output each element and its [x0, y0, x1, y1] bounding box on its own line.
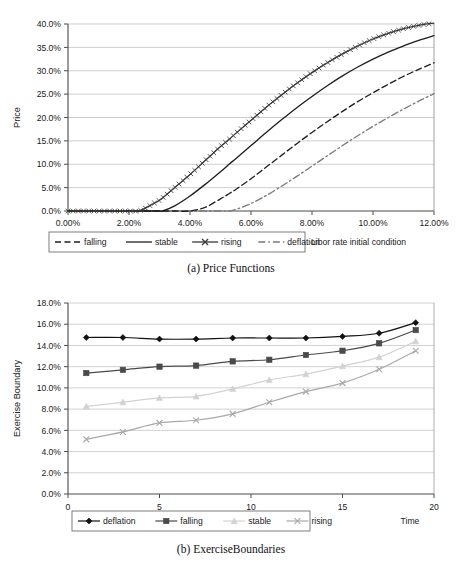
legend-label-stable: stable: [155, 237, 178, 247]
legend-label-rising: rising: [221, 237, 242, 247]
figure-a-caption: (a) Price Functions: [0, 262, 462, 274]
x-tick-label: 0.00%: [56, 218, 81, 228]
y-tick-label: 10.0%: [37, 159, 62, 169]
x-marker: [275, 96, 280, 101]
y-tick-label: 25.0%: [37, 89, 62, 99]
legend-label-falling: falling: [84, 237, 107, 247]
data-point-deflation: [230, 335, 236, 341]
data-point-falling: [230, 359, 235, 364]
x-tick-label: 8.00%: [300, 218, 325, 228]
legend-a: fallingstablerisingdeflation: [49, 232, 320, 252]
y-axis-ticks-b: 0.0%2.0%4.0%6.0%8.0%10.0%12.0%14.0%16.0%…: [37, 298, 68, 499]
chart-a-canvas: 0.0%5.0%10.0%15.0%20.0%25.0%30.0%35.0%40…: [0, 0, 462, 262]
data-point-deflation: [83, 334, 89, 340]
x-tick-label: 12.00%: [419, 218, 449, 228]
figure-price-functions: 0.0%5.0%10.0%15.0%20.0%25.0%30.0%35.0%40…: [0, 0, 462, 285]
series-line-stable: [86, 341, 415, 406]
series-deflation: [83, 320, 418, 342]
x-marker: [157, 198, 162, 203]
x-marker: [291, 84, 296, 89]
x-tick-label: 20: [429, 502, 439, 512]
data-point-deflation: [303, 335, 309, 341]
legend-b: deflationfallingstablerising: [72, 511, 332, 531]
series-line-deflation: [86, 323, 415, 340]
legend-label-falling: falling: [180, 516, 203, 526]
data-point-falling: [303, 352, 308, 357]
x-marker: [317, 66, 322, 71]
y-tick-label: 14.0%: [37, 341, 62, 351]
x-marker: [334, 55, 339, 60]
x-marker: [344, 50, 349, 55]
data-point-falling: [120, 367, 125, 372]
x-axis-title-b: Time: [401, 516, 420, 526]
y-tick-label: 6.0%: [41, 426, 61, 436]
data-point-deflation: [157, 336, 163, 342]
x-tick-label: 0: [66, 502, 71, 512]
x-tick-label: 2.00%: [117, 218, 142, 228]
x-tick-label: 6.00%: [239, 218, 264, 228]
x-tick-label: 4.00%: [178, 218, 203, 228]
x-marker: [304, 74, 309, 79]
x-marker: [295, 81, 300, 86]
y-tick-label: 8.0%: [41, 404, 61, 414]
x-marker: [348, 47, 353, 52]
x-marker: [326, 60, 331, 65]
y-axis-title-b: Exercise Boundary: [12, 360, 22, 438]
x-marker: [339, 52, 344, 57]
x-marker: [161, 195, 166, 200]
y-tick-label: 40.0%: [37, 19, 62, 29]
legend-marker-falling: [164, 518, 169, 523]
data-point-falling: [340, 348, 345, 353]
figure-exercise-boundaries: 0.0%2.0%4.0%6.0%8.0%10.0%12.0%14.0%16.0%…: [0, 285, 462, 574]
x-marker: [143, 206, 148, 211]
data-point-falling: [376, 341, 381, 346]
data-point-deflation: [340, 333, 346, 339]
x-tick-label: 10.00%: [358, 218, 388, 228]
y-tick-label: 2.0%: [41, 468, 61, 478]
legend-label-deflation: deflation: [103, 516, 136, 526]
x-marker: [243, 123, 248, 128]
series-deflation: [68, 94, 434, 211]
x-tick-label: 10: [246, 502, 256, 512]
data-point-rising: [376, 366, 382, 372]
y-tick-label: 35.0%: [37, 43, 62, 53]
x-marker: [271, 100, 276, 105]
data-point-deflation: [266, 335, 272, 341]
y-axis-title-a: Price: [12, 107, 22, 128]
data-point-falling: [157, 364, 162, 369]
x-marker: [362, 41, 367, 46]
x-axis-ticks-b: 05101520: [66, 494, 439, 512]
data-point-deflation: [193, 336, 199, 342]
x-marker: [287, 87, 292, 92]
x-marker: [367, 38, 372, 43]
y-tick-label: 20.0%: [37, 113, 62, 123]
x-marker: [152, 201, 157, 206]
y-axis-ticks-a: 0.0%5.0%10.0%15.0%20.0%25.0%30.0%35.0%40…: [37, 19, 68, 216]
gridlines-a: [68, 24, 434, 188]
y-tick-label: 4.0%: [41, 447, 61, 457]
price-functions-chart: 0.0%5.0%10.0%15.0%20.0%25.0%30.0%35.0%40…: [0, 0, 462, 262]
x-marker: [267, 103, 272, 108]
gridlines-b: [68, 303, 434, 473]
x-marker: [321, 63, 326, 68]
legend-label-rising: rising: [311, 516, 332, 526]
y-tick-label: 15.0%: [37, 136, 62, 146]
legend-label-stable: stable: [248, 516, 271, 526]
data-point-falling: [267, 357, 272, 362]
data-point-falling: [193, 363, 198, 368]
figure-page: 0.0%5.0%10.0%15.0%20.0%25.0%30.0%35.0%40…: [0, 0, 462, 574]
data-point-stable: [413, 338, 419, 344]
y-tick-label: 0.0%: [41, 489, 61, 499]
exercise-boundaries-chart: 0.0%2.0%4.0%6.0%8.0%10.0%12.0%14.0%16.0%…: [0, 285, 462, 543]
series-line-rising: [86, 351, 415, 440]
y-tick-label: 16.0%: [37, 319, 62, 329]
x-marker: [300, 77, 305, 82]
chart-b-canvas: 0.0%2.0%4.0%6.0%8.0%10.0%12.0%14.0%16.0%…: [0, 285, 462, 543]
x-marker: [263, 106, 268, 111]
y-tick-label: 0.0%: [41, 206, 61, 216]
x-marker: [357, 43, 362, 48]
y-tick-label: 18.0%: [37, 298, 62, 308]
series-line-deflation: [68, 94, 434, 211]
series-rising: [83, 348, 418, 442]
y-tick-label: 30.0%: [37, 66, 62, 76]
